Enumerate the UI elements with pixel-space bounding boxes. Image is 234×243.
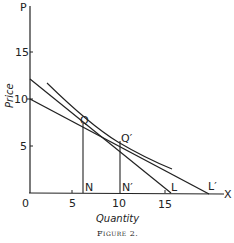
label-L-prime: L′ — [208, 180, 217, 193]
x-axis-title: Quantity — [96, 213, 140, 224]
x-tick-label-15: 15 — [158, 198, 172, 211]
x-tick-label-10: 10 — [112, 197, 126, 210]
label-X: X — [224, 188, 232, 201]
x-tick-label-0: 0 — [22, 197, 29, 210]
x-tick-label-5: 5 — [69, 197, 76, 210]
y-tick-label-10: 10 — [14, 93, 28, 106]
demand-curve-segment — [47, 83, 172, 169]
label-N: N — [85, 181, 93, 194]
y-tick-label-15: 15 — [15, 46, 29, 59]
figure-caption: Figure 2. — [97, 229, 138, 238]
y-axis-title: Price — [4, 83, 15, 108]
figure-chart: P X Q Q′ N N′ L L′ 0 5 10 15 15 10 5 Pri… — [0, 0, 234, 243]
label-L: L — [171, 181, 178, 194]
label-P: P — [20, 1, 27, 14]
label-Q-prime: Q′ — [121, 132, 133, 145]
label-N-prime: N′ — [122, 181, 133, 194]
y-tick-label-5: 5 — [20, 140, 27, 153]
label-Q: Q — [80, 114, 89, 127]
